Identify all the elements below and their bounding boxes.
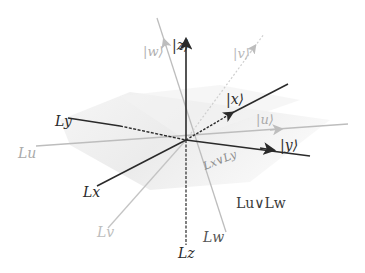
ket-v-label: |v⟩: [233, 46, 250, 61]
ket-y-label: |y⟩: [280, 137, 298, 154]
subspace-Lz-label: Lz: [177, 245, 195, 261]
join-uw-label: Lu∨Lw: [236, 195, 286, 211]
subspace-Lu-label: Lu: [17, 145, 36, 161]
subspace-Lx-label: Lx: [82, 184, 100, 200]
subspace-Lw-label: Lw: [202, 229, 224, 245]
subspace-Lv-label: Lv: [96, 224, 114, 240]
lattice-diagram: |z⟩ |w⟩ |v⟩ |x⟩ |u⟩ |y⟩ Ly Lu Lx Lv Lz L…: [0, 0, 365, 273]
subspace-Ly-label: Ly: [54, 113, 73, 129]
arrow-v: [250, 46, 255, 53]
ket-z-label: |z⟩: [172, 37, 190, 54]
ket-x-label: |x⟩: [226, 91, 244, 108]
ket-u-label: |u⟩: [256, 112, 274, 127]
ket-w-label: |w⟩: [143, 44, 164, 59]
arrow-u: [270, 129, 281, 130]
